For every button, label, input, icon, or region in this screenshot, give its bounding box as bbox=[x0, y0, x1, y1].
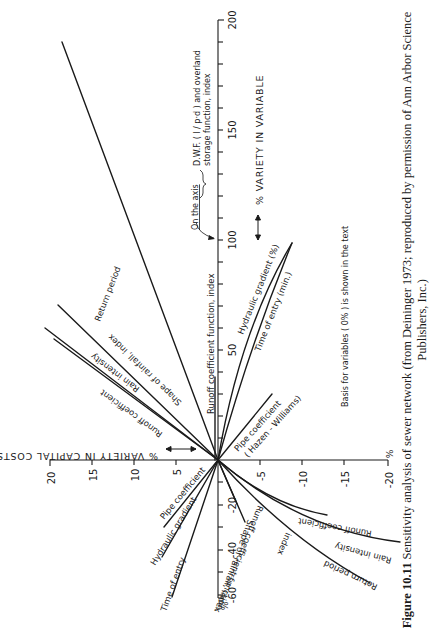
x-tick-neg10: -10 bbox=[298, 471, 309, 487]
x-tick-10: 10 bbox=[130, 469, 141, 482]
label-time-entry: Time of entry bbox=[158, 556, 187, 614]
x-tick-5: 5 bbox=[172, 469, 183, 475]
caption-text: Sensitivity analysis of sewer network (f… bbox=[400, 11, 429, 559]
basis-note: Basis for variables ( 0% ) is shown in t… bbox=[341, 226, 350, 407]
y-tick-50: 50 bbox=[227, 344, 238, 357]
y-tick-100: 100 bbox=[227, 230, 238, 249]
label-rain-intensity-neg: Rain intensity bbox=[334, 541, 393, 566]
on-axis-note: On the axis D.W.F. ( l / p·d ) and overl… bbox=[191, 50, 215, 240]
line-shape-rainfall bbox=[58, 305, 218, 460]
label-runoff-fn-neg-2: index bbox=[275, 531, 293, 556]
x-tick-neg15: -15 bbox=[340, 471, 351, 487]
label-runoff-fn-neg-1: Runoff coefficient function, bbox=[213, 504, 265, 614]
y-tick-labels: 200 150 100 50 -20 -40 -60 % bbox=[220, 10, 238, 610]
on-axis-line1: D.W.F. ( l / p·d ) and overland bbox=[193, 50, 202, 166]
label-runoff-coeff-neg: Runoff coefficient bbox=[297, 516, 373, 539]
x-axis-title: % VARIETY IN CAPITAL COSTS bbox=[0, 451, 158, 462]
y-tick-200: 200 bbox=[227, 10, 238, 29]
label-runoff-fn: Runoff coefficient function, index bbox=[206, 274, 216, 414]
label-return-period-neg: Return period bbox=[322, 559, 379, 593]
on-axis-line2: storage function, index bbox=[203, 73, 212, 166]
on-axis-label: On the axis bbox=[191, 184, 200, 230]
y-tick-neg20: -20 bbox=[227, 497, 238, 513]
figure-number: Figure 10.11 bbox=[400, 562, 414, 628]
x-tick-15: 15 bbox=[88, 469, 99, 482]
y-ticks bbox=[218, 42, 223, 595]
y-tick-150: 150 bbox=[227, 120, 238, 139]
label-return-period: Return period bbox=[93, 265, 123, 323]
y-axis-title: % VARIETY IN VARIABLE bbox=[254, 75, 265, 205]
x-tick-neg5: -5 bbox=[256, 471, 267, 481]
x-tick-20: 20 bbox=[46, 472, 57, 485]
figure-caption: Figure 10.11 Sensitivity analysis of sew… bbox=[390, 0, 440, 639]
sensitivity-chart: 20 15 10 5 -5 -10 -15 -20 % 200 150 100 … bbox=[0, 0, 443, 639]
axis-titles: % VARIETY IN CAPITAL COSTS % VARIETY IN … bbox=[0, 75, 265, 462]
